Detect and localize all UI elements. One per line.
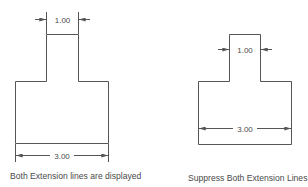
right-top-dimension: 1.00 [237,46,253,55]
diagram-canvas: 1.00 3.00 1.00 3.00 [0,0,308,187]
left-shape-outline [16,35,109,144]
right-caption: Suppress Both Extension Lines [188,173,307,183]
right-bottom-dimension: 3.00 [237,125,253,134]
left-caption: Both Extension lines are displayed [10,171,141,181]
left-figure [16,12,109,162]
left-bottom-dimension: 3.00 [54,152,70,161]
left-top-dimension: 1.00 [55,16,71,25]
